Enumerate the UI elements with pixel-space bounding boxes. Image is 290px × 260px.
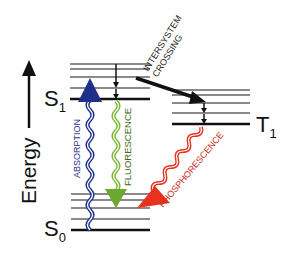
s0-levels (71, 194, 150, 230)
jablonski-diagram: Energy S1 T1 S0 ABSORPTION FLUO (0, 0, 290, 260)
absorption-label: ABSORPTION (72, 119, 82, 178)
state-s0-label: S0 (44, 216, 66, 245)
energy-axis-arrow (22, 60, 36, 128)
energy-axis-label: Energy (17, 137, 40, 204)
s1-levels (70, 64, 150, 99)
intersystem-crossing-label: INTERSYSTEM CROSSING (141, 11, 194, 79)
state-s1-label: S1 (44, 86, 66, 115)
state-t1-label: T1 (256, 112, 277, 141)
fluorescence-label: FLUORESCENCE (122, 108, 133, 186)
